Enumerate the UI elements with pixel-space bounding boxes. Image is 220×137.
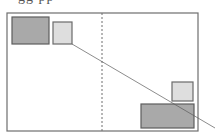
bottom-right-light-square xyxy=(172,82,193,101)
diagram-canvas xyxy=(0,0,220,137)
top-left-dark-rect xyxy=(12,17,49,44)
bottom-right-dark-rect xyxy=(141,104,194,128)
top-left-light-square xyxy=(53,22,72,44)
diagram-shapes xyxy=(12,17,194,128)
